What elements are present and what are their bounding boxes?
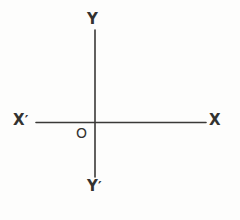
axis-label-x-negative: X′ (13, 113, 29, 128)
axis-label-y-positive: Y (87, 12, 98, 27)
axis-label-x-negative-letter: X (13, 111, 25, 129)
axis-label-y-negative-letter: Y (87, 177, 98, 195)
axis-label-y-negative-prime: ′ (98, 178, 102, 194)
axes-drawing (0, 0, 240, 220)
axis-label-x-negative-prime: ′ (25, 112, 29, 128)
axis-label-x-positive: X (209, 113, 221, 128)
origin-label: O (76, 126, 87, 140)
coordinate-axes-figure: Y Y′ X′ X O (0, 0, 240, 220)
axis-label-y-negative: Y′ (87, 179, 102, 194)
axis-label-y-positive-text: Y (87, 10, 98, 28)
origin-label-text: O (76, 125, 87, 141)
axis-label-x-positive-text: X (209, 111, 221, 129)
